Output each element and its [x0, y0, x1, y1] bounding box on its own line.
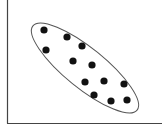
data-point: [90, 91, 97, 98]
data-point: [69, 57, 76, 64]
data-point: [78, 42, 85, 49]
data-point: [107, 97, 114, 104]
data-point: [120, 80, 127, 87]
data-point: [63, 33, 70, 40]
scatter-plot-canvas: [0, 0, 162, 127]
data-point: [42, 46, 49, 53]
data-point: [123, 96, 130, 103]
data-point: [100, 77, 107, 84]
data-point: [88, 61, 95, 68]
correlation-ellipse: [20, 10, 149, 125]
data-point: [40, 26, 47, 33]
data-point: [81, 78, 88, 85]
scatter-plot-diagram: [0, 0, 162, 127]
